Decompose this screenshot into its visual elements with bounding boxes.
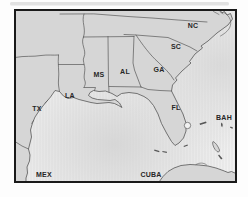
border-alabama-florida bbox=[109, 87, 141, 88]
map-label-ms: MS bbox=[94, 71, 105, 78]
lake-okeechobee bbox=[184, 122, 190, 128]
map-label-sc: SC bbox=[171, 43, 181, 50]
map-label-bah: BAH bbox=[216, 114, 232, 121]
map-label-fl: FL bbox=[171, 104, 181, 111]
southeast-us-map: TX LA MS AL GA SC NC FL BAH MEX CUBA bbox=[0, 0, 248, 197]
map-label-mex: MEX bbox=[36, 171, 52, 178]
map-label-cuba: CUBA bbox=[140, 171, 161, 178]
map-label-tx: TX bbox=[32, 105, 42, 112]
map-label-nc: NC bbox=[188, 22, 199, 29]
map-label-la: LA bbox=[65, 92, 75, 99]
map-figure: TX LA MS AL GA SC NC FL BAH MEX CUBA bbox=[0, 0, 248, 197]
border-tennessee-south bbox=[84, 37, 135, 38]
scan-artifact-strip bbox=[10, 2, 229, 6]
map-label-ga: GA bbox=[154, 66, 165, 73]
map-label-al: AL bbox=[120, 68, 130, 75]
